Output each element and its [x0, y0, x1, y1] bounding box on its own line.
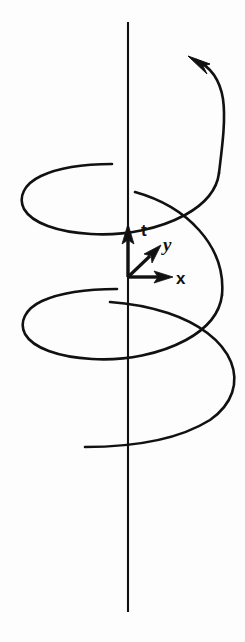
x-axis-label: x: [176, 269, 186, 288]
y-axis-label: y: [161, 234, 172, 255]
helix-diagram: t y x: [0, 0, 245, 642]
figure-canvas: t y x: [0, 0, 245, 642]
figure-background: [0, 0, 245, 642]
t-axis-label: t: [141, 221, 147, 240]
